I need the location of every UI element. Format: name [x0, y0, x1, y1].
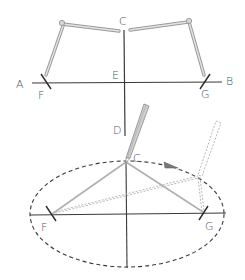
label-d: D — [113, 124, 121, 137]
line-ab — [32, 82, 222, 83]
string-fc — [52, 162, 126, 214]
top-panel: A B C E F G D — [16, 15, 233, 137]
focus-f-tick-bottom — [46, 206, 56, 221]
hinge-left — [59, 20, 64, 25]
label-e: E — [112, 69, 119, 82]
string-cg — [126, 162, 203, 212]
major-axis — [30, 213, 226, 215]
string-rod-left-upper — [62, 24, 119, 31]
label-f-top: F — [38, 89, 44, 102]
label-c-bottom: C — [133, 152, 141, 165]
line-cd — [124, 30, 125, 136]
label-g-bottom: G — [205, 220, 214, 233]
pencil-ghost-icon — [198, 121, 221, 176]
string-rod-right-lower — [189, 22, 204, 75]
ellipse-construction-diagram: A B C E F G D — [0, 0, 245, 280]
hinge-right — [186, 18, 191, 23]
label-b: B — [226, 75, 233, 88]
string-rod-left-lower — [46, 26, 63, 75]
label-g-top: G — [201, 88, 210, 101]
label-c-top: C — [119, 15, 127, 28]
string-dotted-f — [52, 178, 198, 214]
string-dotted-g2 — [200, 177, 204, 211]
label-f-bottom: F — [41, 221, 47, 234]
label-a: A — [16, 78, 24, 91]
string-rod-right-upper — [130, 22, 188, 30]
string-dotted-g — [198, 178, 202, 212]
direction-arrow-icon — [164, 162, 178, 168]
minor-axis — [126, 161, 127, 268]
bottom-panel: C F G — [30, 104, 226, 268]
